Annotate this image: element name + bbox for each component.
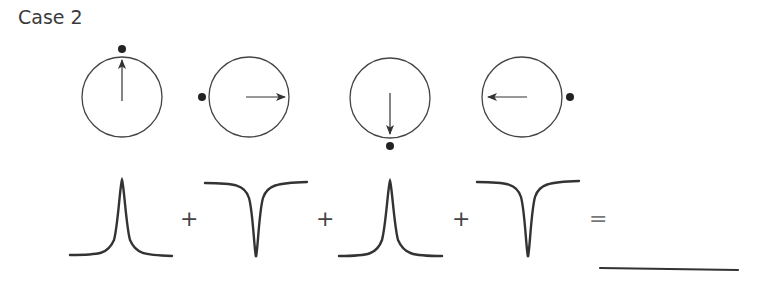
signal-dip-4 <box>477 181 579 257</box>
equals-operator: = <box>589 208 607 230</box>
result-flat-line <box>600 268 738 270</box>
dot-marker <box>198 93 206 101</box>
dot-marker <box>566 93 574 101</box>
plus-operator-2: + <box>316 208 334 230</box>
vector-diagram-1 <box>82 45 162 137</box>
plus-operator-3: + <box>452 208 470 230</box>
vector-diagram-3 <box>350 58 430 150</box>
dot-marker <box>386 142 394 150</box>
vector-sum-diagram <box>0 0 774 282</box>
plus-operator-1: + <box>180 208 198 230</box>
vector-diagram-4 <box>482 57 574 137</box>
dot-marker <box>118 45 126 53</box>
vector-diagram-2 <box>198 57 289 137</box>
signal-dip-2 <box>205 182 307 257</box>
signal-peak-3 <box>339 181 442 256</box>
signal-peak-1 <box>70 180 172 256</box>
